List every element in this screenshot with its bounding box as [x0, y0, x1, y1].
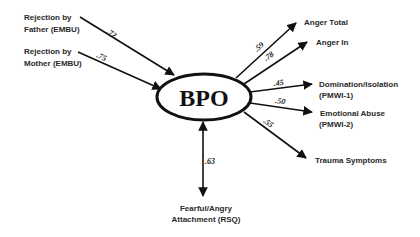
input-node-mother: Rejection by Mother (EMBU)	[24, 47, 82, 68]
trauma-label: Trauma Symptoms	[315, 156, 387, 165]
coef-domination: .45	[273, 78, 284, 88]
anger-total-label: Anger Total	[304, 18, 348, 27]
emotional-abuse-label-line2: (PMWI-2)	[319, 120, 354, 129]
input-node-father: Rejection by Father (EMBU)	[24, 13, 80, 34]
domination-label-line2: (PMWI-1)	[319, 91, 354, 100]
path-diagram: Rejection by Father (EMBU) .72 Rejection…	[0, 0, 420, 237]
coef-emotional-abuse: .50	[275, 96, 286, 106]
edge-bpo-to-trauma	[244, 112, 306, 158]
mother-label-line1: Rejection by	[24, 47, 72, 56]
bpo-label: BPO	[179, 85, 228, 111]
attachment-label-line1: Fearful/Angry	[180, 204, 233, 213]
father-label-line2: Father (EMBU)	[24, 25, 80, 34]
attachment-label-line2: Attachment (RSQ)	[172, 215, 241, 224]
domination-label-line1: Domination/Isolation	[319, 80, 398, 89]
father-label-line1: Rejection by	[24, 13, 72, 22]
edge-mother-to-bpo	[78, 52, 161, 89]
mother-label-line2: Mother (EMBU)	[24, 59, 82, 68]
coef-attachment: .63	[205, 157, 215, 166]
central-construct: BPO	[157, 74, 251, 120]
edge-father-to-bpo	[80, 17, 174, 75]
emotional-abuse-label-line1: Emotional Abuse	[320, 109, 386, 118]
anger-in-label: Anger In	[316, 38, 349, 47]
coef-father: .72	[105, 27, 118, 40]
